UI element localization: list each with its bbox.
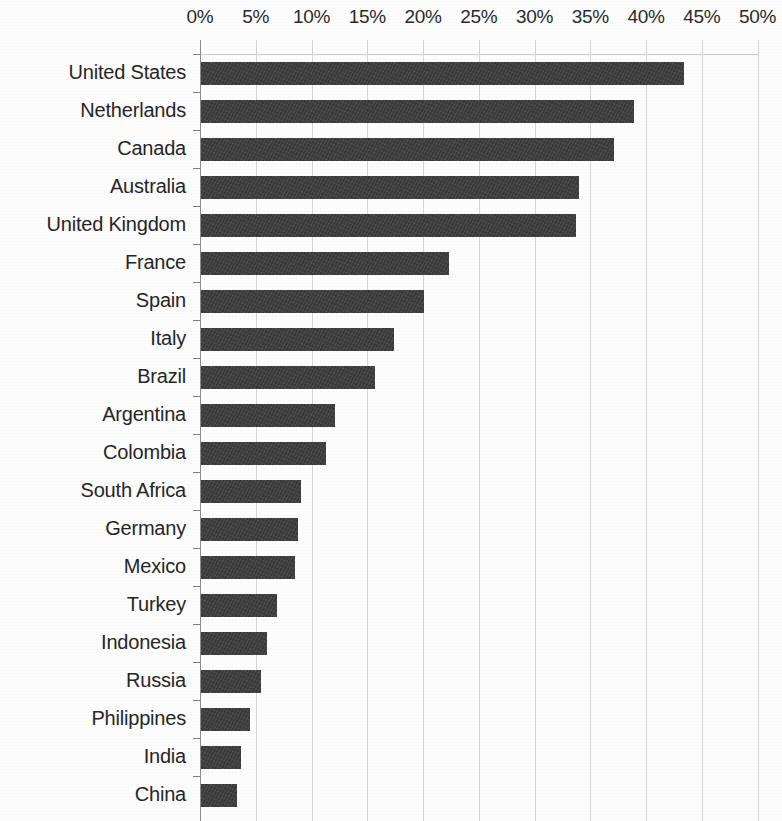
bar [201, 746, 241, 769]
bar-row [200, 282, 758, 320]
x-axis-tick-labels: 0%5%10%15%20%25%30%35%40%45%50% [0, 0, 782, 34]
bar-row [200, 130, 758, 168]
y-axis-tick [193, 662, 200, 663]
y-axis-category-label: Russia [0, 669, 186, 692]
bar-chart: 0%5%10%15%20%25%30%35%40%45%50% United S… [0, 0, 782, 821]
bar [201, 480, 301, 503]
x-tick-label: 25% [460, 6, 497, 28]
x-tick-label: 30% [516, 6, 553, 28]
bar-row [200, 168, 758, 206]
y-axis-tick [193, 738, 200, 739]
y-axis-tick [193, 130, 200, 131]
y-axis-tick [193, 548, 200, 549]
y-axis-tick [193, 700, 200, 701]
y-axis-category-label: Brazil [0, 365, 186, 388]
x-tick-label: 20% [404, 6, 441, 28]
bar [201, 708, 250, 731]
bar [201, 442, 326, 465]
bar-row [200, 54, 758, 92]
bar [201, 556, 295, 579]
y-axis-category-label: Germany [0, 517, 186, 540]
bar [201, 100, 634, 123]
y-axis-category-label: Italy [0, 327, 186, 350]
bar [201, 632, 267, 655]
y-axis-tick [193, 624, 200, 625]
y-axis-tick [193, 168, 200, 169]
y-axis-category-label: Canada [0, 137, 186, 160]
bar [201, 594, 277, 617]
y-axis-tick [193, 396, 200, 397]
x-tick-label: 5% [242, 6, 269, 28]
y-axis-tick [193, 282, 200, 283]
y-axis-tick [193, 244, 200, 245]
bar-row [200, 472, 758, 510]
bar [201, 62, 684, 85]
x-tick-label: 50% [739, 6, 776, 28]
y-axis-category-label: Spain [0, 289, 186, 312]
bar-row [200, 776, 758, 814]
bar-row [200, 548, 758, 586]
y-axis-tick [193, 472, 200, 473]
bar-row [200, 244, 758, 282]
bar-row [200, 662, 758, 700]
x-tick-label: 35% [572, 6, 609, 28]
bar-row [200, 396, 758, 434]
x-tick-label: 10% [293, 6, 330, 28]
x-tick-label: 40% [627, 6, 664, 28]
y-axis-category-label: Argentina [0, 403, 186, 426]
y-axis-category-label: South Africa [0, 479, 186, 502]
x-tick-label: 45% [683, 6, 720, 28]
y-axis-tick [193, 54, 200, 55]
bar-row [200, 738, 758, 776]
y-axis-category-label: Colombia [0, 441, 186, 464]
bar [201, 138, 614, 161]
y-axis-tick [193, 92, 200, 93]
y-axis-category-label: Philippines [0, 707, 186, 730]
y-axis-tick [193, 586, 200, 587]
y-axis-category-label: Australia [0, 175, 186, 198]
bar-row [200, 92, 758, 130]
bar [201, 176, 579, 199]
y-axis-category-label: India [0, 745, 186, 768]
bar [201, 328, 394, 351]
y-axis-tick [193, 434, 200, 435]
y-axis-category-label: China [0, 783, 186, 806]
y-axis-category-label: Indonesia [0, 631, 186, 654]
bar [201, 404, 335, 427]
bar-row [200, 434, 758, 472]
y-axis-tick [193, 776, 200, 777]
bar-row [200, 700, 758, 738]
y-axis-category-label: Netherlands [0, 99, 186, 122]
bar [201, 214, 576, 237]
bar-row [200, 206, 758, 244]
y-axis-category-label: United States [0, 61, 186, 84]
y-axis-category-label: United Kingdom [0, 213, 186, 236]
bar-row [200, 358, 758, 396]
bar-row [200, 624, 758, 662]
y-axis-category-labels: United StatesNetherlandsCanadaAustraliaU… [0, 40, 186, 821]
bar [201, 290, 424, 313]
plot-area [200, 40, 758, 821]
y-axis-category-label: Mexico [0, 555, 186, 578]
x-tick-label: 15% [349, 6, 386, 28]
bar-row [200, 586, 758, 624]
bar [201, 670, 261, 693]
bar-row [200, 320, 758, 358]
bar [201, 366, 375, 389]
y-axis-tick [193, 206, 200, 207]
bar [201, 518, 298, 541]
y-axis-tick [193, 358, 200, 359]
y-axis-category-label: Turkey [0, 593, 186, 616]
bar [201, 784, 237, 807]
bar [201, 252, 449, 275]
bar-row [200, 510, 758, 548]
y-axis-tick [193, 320, 200, 321]
y-axis-category-label: France [0, 251, 186, 274]
x-tick-label: 0% [187, 6, 214, 28]
y-axis-tick [193, 510, 200, 511]
